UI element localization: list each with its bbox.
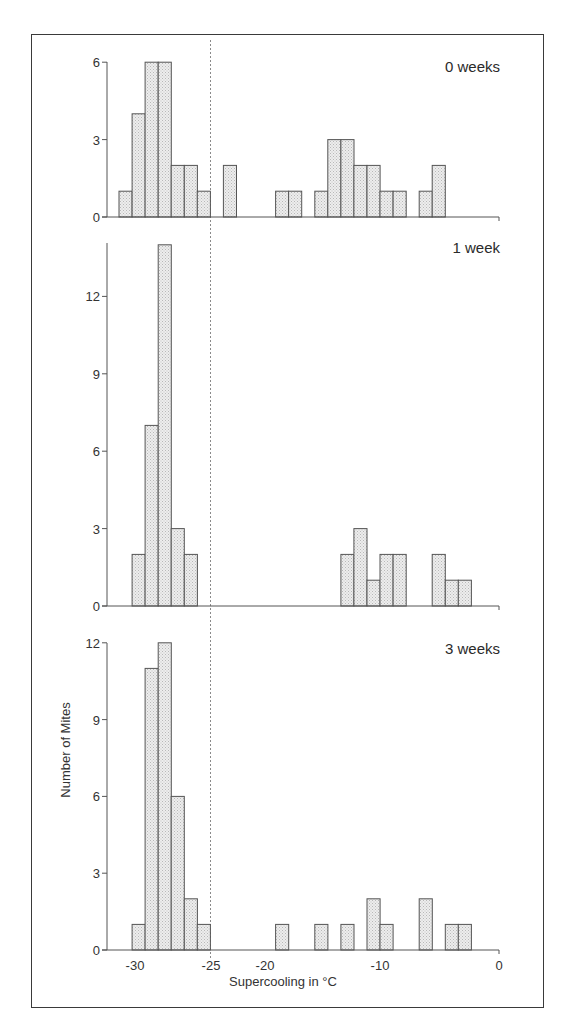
histogram-bar: [393, 191, 406, 217]
histogram-bar: [341, 140, 354, 217]
panel-1-week: 0369121 week: [86, 239, 501, 614]
histogram-bar: [119, 191, 132, 217]
histogram-bar: [276, 924, 289, 950]
histogram-bar: [184, 554, 197, 606]
histogram-bar: [197, 924, 210, 950]
y-tick-label: 12: [86, 289, 100, 304]
y-tick-label: 6: [93, 55, 100, 70]
histogram-bar: [354, 529, 367, 606]
histogram-bar: [354, 165, 367, 217]
histogram-bar: [419, 899, 432, 950]
histogram-bar: [315, 924, 328, 950]
histogram-bar: [445, 580, 458, 606]
histogram-bar: [171, 165, 184, 217]
panel-label: 1 week: [452, 239, 500, 256]
histogram-bar: [380, 191, 393, 217]
y-tick-label: 3: [93, 866, 100, 881]
histogram-bar: [367, 580, 380, 606]
histogram-bar: [223, 165, 236, 217]
y-tick-label: 12: [86, 636, 100, 651]
panel-0-weeks: 0360 weeks: [93, 55, 500, 225]
histogram-bar: [184, 899, 197, 950]
histogram-bar: [419, 191, 432, 217]
histogram-bar: [367, 165, 380, 217]
y-tick-label: 3: [93, 522, 100, 537]
histogram-bar: [367, 899, 380, 950]
histogram-bar: [445, 924, 458, 950]
y-tick-label: 0: [93, 210, 100, 225]
y-tick-label: 9: [93, 367, 100, 382]
histogram-bar: [171, 529, 184, 606]
histogram-bar: [158, 62, 171, 217]
y-tick-label: 3: [93, 133, 100, 148]
y-axis-title: Number of Mites: [58, 702, 73, 798]
histogram-bar: [289, 191, 302, 217]
x-tick-label: -20: [256, 958, 275, 973]
histogram-bar: [393, 554, 406, 606]
y-tick-label: 0: [93, 599, 100, 614]
histogram-bar: [328, 140, 341, 217]
y-tick-label: 0: [93, 943, 100, 958]
histogram-bar: [380, 924, 393, 950]
y-tick-label: 9: [93, 713, 100, 728]
histogram-bar: [145, 425, 158, 606]
x-tick-label: -30: [126, 958, 145, 973]
histogram-bar: [158, 643, 171, 950]
panel-label: 3 weeks: [445, 640, 500, 657]
histogram-bar: [132, 114, 145, 217]
histogram-bar: [145, 62, 158, 217]
histogram-bar: [380, 554, 393, 606]
histogram-bar: [432, 554, 445, 606]
histogram-figure: 0360 weeks0369121 week0369123 weeks -30 …: [0, 0, 566, 1032]
x-tick-label: -25: [202, 958, 221, 973]
panel-label: 0 weeks: [445, 58, 500, 75]
histogram-bar: [158, 245, 171, 606]
histogram-bar: [171, 796, 184, 950]
histogram-bar: [197, 191, 210, 217]
y-tick-label: 6: [93, 444, 100, 459]
histogram-bar: [276, 191, 289, 217]
y-tick-label: 6: [93, 789, 100, 804]
histogram-bar: [458, 924, 471, 950]
histogram-bar: [458, 580, 471, 606]
histogram-bar: [132, 924, 145, 950]
histogram-bar: [432, 165, 445, 217]
x-tick-label: -10: [371, 958, 390, 973]
panel-3-weeks: 0369123 weeks: [86, 636, 500, 958]
histogram-bar: [132, 554, 145, 606]
x-axis-tick-labels: -30 -25 -20 -10 0: [126, 958, 503, 973]
x-axis-title: Supercooling in °C: [229, 974, 337, 989]
histogram-bar: [341, 924, 354, 950]
histogram-bar: [315, 191, 328, 217]
x-tick-label: 0: [495, 958, 502, 973]
histogram-bar: [145, 668, 158, 950]
histogram-bar: [341, 554, 354, 606]
histogram-bar: [184, 165, 197, 217]
